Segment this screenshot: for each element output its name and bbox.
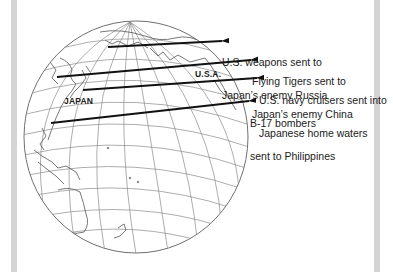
japan-label: JAPAN xyxy=(64,96,93,106)
usa-label: U.S.A. xyxy=(195,69,221,79)
annotation-b17-philippines: B-17 bombers sent to Philippines xyxy=(250,96,335,173)
annotation-line: sent to Philippines xyxy=(250,151,335,162)
annotation-line: B-17 bombers xyxy=(250,118,335,129)
